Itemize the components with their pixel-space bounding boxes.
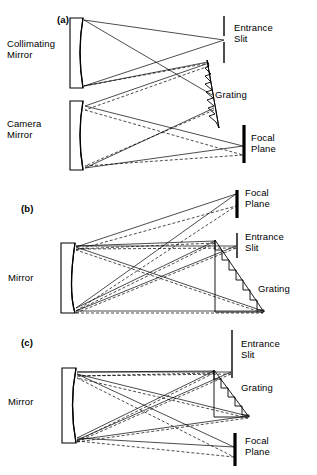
rays-slit-to-mirror-b [76, 246, 236, 313]
panel-b-graphics [61, 190, 264, 313]
label-focal-plane-b: Focal Plane [245, 187, 270, 209]
label-camera-mirror: Camera Mirror [7, 118, 41, 140]
label-focal-plane-c: Focal Plane [245, 435, 270, 457]
panel-c-graphics [62, 330, 249, 466]
optical-schematic-figure: (a) Collimating Mirror Camera Mirror Ent… [0, 0, 317, 475]
label-mirror-b: Mirror [8, 272, 33, 283]
label-grating-c: Grating [241, 382, 273, 393]
rays-mirror-to-focal-c [77, 374, 234, 457]
label-entrance-slit-c: Entrance Slit [241, 338, 280, 360]
label-grating-b: Grating [258, 283, 290, 294]
mirror-c [62, 368, 76, 443]
panel-b-tag: (b) [21, 203, 33, 214]
rays-collimator-to-grating-a [84, 20, 212, 95]
label-collimating-mirror: Collimating Mirror [7, 38, 55, 60]
rays-camera-to-focal-a [85, 106, 243, 168]
panel-a-tag: (a) [57, 14, 69, 25]
label-entrance-slit-b: Entrance Slit [245, 231, 284, 253]
camera-mirror [70, 101, 83, 170]
mirror-b [61, 243, 75, 313]
panel-c-tag: (c) [21, 337, 33, 348]
label-mirror-c: Mirror [8, 396, 33, 407]
label-focal-plane-a: Focal Plane [251, 132, 276, 154]
label-grating-a: Grating [215, 89, 247, 100]
rays-slit-to-collimator-a [84, 20, 224, 86]
label-entrance-slit-a: Entrance Slit [234, 22, 273, 44]
collimating-mirror [70, 18, 83, 88]
